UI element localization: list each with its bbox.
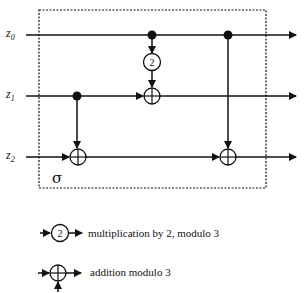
input-label-z0: z0 [5,26,15,42]
legend-multiplier: 2 multiplication by 2, modulo 3 [40,225,220,242]
input-label-z2: z2 [5,148,15,164]
diagram-canvas: z0 z1 z2 2 σ 2 mult [0,0,306,293]
legend-multiplier-text: multiplication by 2, modulo 3 [88,227,220,239]
multiply-by-2-node: 2 [144,54,161,71]
xor-node-z2-right [220,149,236,165]
input-label-z1: z1 [5,87,15,103]
legend-xor: addition modulo 3 [38,265,171,292]
sigma-label: σ [52,169,62,187]
legend-xor-text: addition modulo 3 [90,266,171,278]
xor-node-z2-left [70,149,86,165]
svg-text:2: 2 [150,57,155,68]
svg-text:2: 2 [58,228,63,239]
xor-node-z1 [144,88,160,104]
